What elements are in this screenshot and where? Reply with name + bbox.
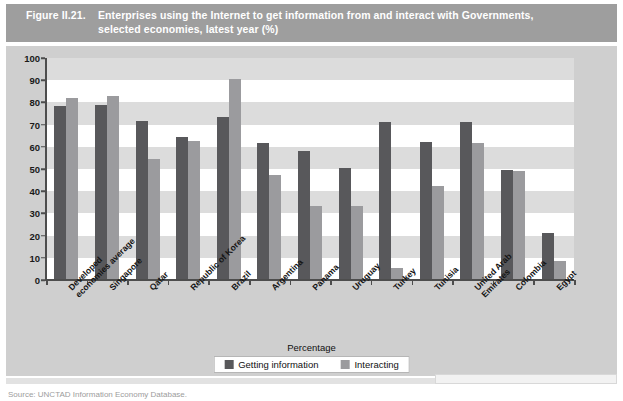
bar-group [257, 58, 281, 280]
legend-item-interacting: Interacting [340, 359, 398, 370]
y-axis-tick-label: 40 [6, 186, 40, 197]
bar [188, 141, 200, 280]
bar-group [379, 58, 403, 280]
y-axis-tickmark [41, 79, 45, 81]
source-note: Source: UNCTAD Information Economy Datab… [8, 390, 568, 399]
bar [257, 143, 269, 280]
x-axis-tickmark [46, 280, 48, 285]
figure-page: Figure II.21.Enterprises using the Inter… [0, 0, 623, 401]
y-axis-tickmark [41, 213, 45, 215]
bar [420, 142, 432, 280]
bar-group [176, 58, 200, 280]
bar-group [420, 58, 444, 280]
bar [176, 137, 188, 280]
bar-group [542, 58, 566, 280]
legend-label-interacting: Interacting [354, 359, 398, 370]
y-axis-tickmark [41, 235, 45, 237]
y-axis-tick-label: 100 [6, 53, 40, 64]
y-axis-tickmark [41, 102, 45, 104]
x-axis-tickmark [412, 280, 414, 285]
chart-legend: Getting information Interacting [213, 356, 410, 373]
y-axis-tick-label: 10 [6, 252, 40, 263]
figure-title-banner: Figure II.21.Enterprises using the Inter… [6, 4, 617, 42]
y-axis-tickmark [41, 257, 45, 259]
bar [472, 143, 484, 280]
legend-label-getting-information: Getting information [238, 359, 318, 370]
bar [339, 168, 351, 280]
figure-number: Figure II.21. [26, 9, 98, 23]
legend-swatch-icon-getting-information [224, 360, 233, 369]
horizontal-scrollbar[interactable] [435, 374, 617, 384]
x-axis-tickmark [208, 280, 210, 285]
legend-item-getting-information: Getting information [224, 359, 318, 370]
x-axis-labels: Developedeconomies averageSingaporeQatar… [46, 286, 574, 338]
x-axis-tickmark [168, 280, 170, 285]
bar-group [339, 58, 363, 280]
bar [269, 175, 281, 280]
figure-title-line-2: selected economies, latest year (%) [26, 23, 606, 37]
y-axis-tick-label: 90 [6, 75, 40, 86]
x-axis-tickmark [371, 280, 373, 285]
y-axis-tick-label: 0 [6, 275, 40, 286]
x-axis-tickmark [330, 280, 332, 285]
bar-group [54, 58, 78, 280]
y-axis-tickmark [41, 124, 45, 126]
bar [54, 106, 66, 280]
y-axis-tick-label: 70 [6, 119, 40, 130]
bar-group [501, 58, 525, 280]
bar-group [136, 58, 160, 280]
bar [432, 186, 444, 280]
y-axis-tick-label: 80 [6, 97, 40, 108]
y-axis-tickmark [41, 146, 45, 148]
x-axis-tickmark [574, 280, 576, 285]
x-axis-title: Percentage [6, 342, 617, 353]
y-axis-tickmark [41, 190, 45, 192]
y-axis-tickmark [41, 57, 45, 59]
x-axis-tickmark [452, 280, 454, 285]
y-axis-tick-label: 50 [6, 164, 40, 175]
figure-title-line-1: Enterprises using the Internet to get in… [98, 9, 534, 21]
y-axis-line [45, 58, 47, 280]
y-axis-tick-label: 30 [6, 208, 40, 219]
legend-swatch-icon-interacting [340, 360, 349, 369]
bar-group [298, 58, 322, 280]
x-axis-tickmark [533, 280, 535, 285]
bar [379, 122, 391, 280]
bar [310, 206, 322, 280]
figure-title-text: Figure II.21.Enterprises using the Inter… [26, 9, 606, 36]
x-axis-tickmark [249, 280, 251, 285]
y-axis-tick-label: 20 [6, 230, 40, 241]
y-axis-tickmark [41, 279, 45, 281]
bar [148, 159, 160, 280]
bar [351, 206, 363, 280]
bar [542, 233, 554, 280]
x-axis-tickmark [290, 280, 292, 285]
y-axis-tick-label: 60 [6, 141, 40, 152]
figure-panel: 0102030405060708090100 Developedeconomie… [6, 46, 617, 376]
y-axis-tickmark [41, 168, 45, 170]
bar-group [460, 58, 484, 280]
x-axis-tickmark [127, 280, 129, 285]
bar [460, 122, 472, 280]
bar [66, 98, 78, 280]
